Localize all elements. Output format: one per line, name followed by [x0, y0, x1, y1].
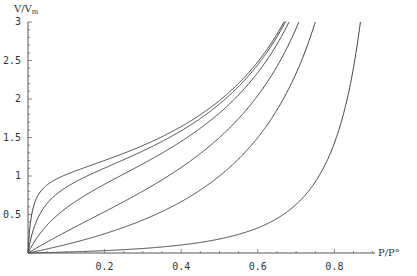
y-axis-label: V/Vm: [13, 3, 39, 16]
isotherm-curves: [28, 22, 360, 253]
y-tick-label: 1.5: [3, 132, 21, 143]
isotherm-curve-c-30: [28, 22, 286, 253]
axes: 0.20.40.60.8 0.511.522.53: [3, 16, 375, 272]
y-tick-label: 0.5: [3, 209, 21, 220]
x-tick-label: 0.8: [325, 261, 343, 272]
y-tick-label: 2: [15, 93, 21, 104]
y-axis-label-main: V/V: [13, 3, 33, 14]
y-tick-label: 2.5: [3, 55, 21, 66]
y-axis-label-sub: m: [32, 8, 39, 16]
x-ticks: 0.20.40.60.8: [47, 249, 373, 272]
x-tick-label: 0.4: [172, 261, 190, 272]
x-tick-label: 0.6: [249, 261, 267, 272]
isotherm-curve-c-3: [28, 22, 299, 253]
y-tick-label: 3: [15, 16, 21, 27]
bet-isotherm-chart: 0.20.40.60.8 0.511.522.53 P/P° V/Vm: [0, 0, 417, 276]
y-tick-label: 1: [15, 170, 21, 181]
x-tick-label: 0.2: [96, 261, 114, 272]
isotherm-curve-c-100: [28, 22, 285, 253]
isotherm-curve-c-1: [28, 22, 315, 253]
isotherm-curve-c-0-1: [28, 22, 360, 253]
x-axis-label: P/P°: [378, 247, 400, 258]
isotherm-curve-c-10: [28, 22, 289, 253]
